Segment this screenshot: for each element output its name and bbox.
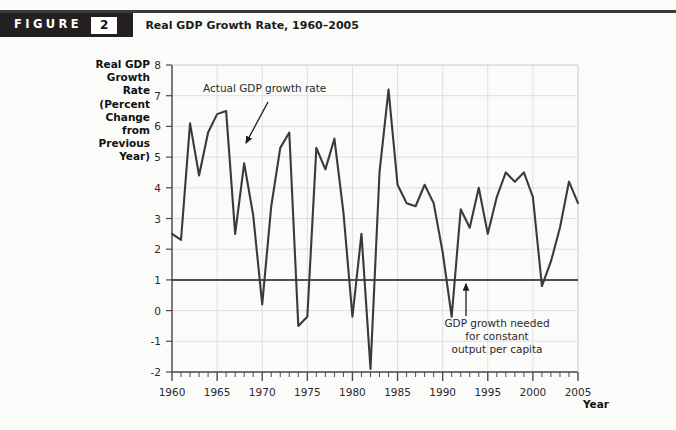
- figure-banner-tail: [124, 13, 133, 37]
- y-axis-title-line: Growth: [107, 71, 150, 83]
- y-tick-label: 3: [154, 213, 161, 225]
- y-tick-label: 2: [154, 243, 161, 255]
- y-axis-title-line: Real GDP: [95, 58, 150, 70]
- y-tick-label: 1: [154, 274, 161, 286]
- y-tick-label: -2: [151, 366, 161, 378]
- y-axis-tick-labels: 876543210-1-2: [151, 59, 162, 378]
- figure-word-block: FIGURE: [0, 13, 91, 37]
- x-tick-label: 1965: [204, 386, 231, 398]
- y-tick-label: 0: [154, 305, 161, 317]
- y-axis-title-line: Rate: [123, 84, 150, 96]
- x-tick-label: 2005: [565, 386, 592, 398]
- figure-page: FIGURE 2 Real GDP Growth Rate, 1960–2005…: [0, 0, 676, 430]
- y-tick-label: 7: [154, 90, 161, 102]
- x-tick-label: 1985: [384, 386, 411, 398]
- y-tick-label: 8: [154, 59, 161, 71]
- y-axis-title: Real GDPGrowthRate(PercentChangefromPrev…: [95, 58, 150, 162]
- figure-banner: FIGURE 2 Real GDP Growth Rate, 1960–2005: [0, 13, 359, 37]
- gdp-growth-line-chart: 876543210-1-2 19601965197019751980198519…: [0, 40, 676, 430]
- x-tick-label: 1960: [159, 386, 186, 398]
- x-tick-label: 1995: [474, 386, 501, 398]
- x-tick-label: 1975: [294, 386, 321, 398]
- y-axis-title-line: Previous: [99, 137, 150, 149]
- figure-label: FIGURE: [14, 19, 82, 31]
- x-tick-label: 1980: [339, 386, 366, 398]
- figure-number-wrap: 2: [91, 13, 124, 37]
- y-tick-label: 5: [154, 151, 161, 163]
- x-tick-label: 1970: [249, 386, 276, 398]
- chart-container: 876543210-1-2 19601965197019751980198519…: [0, 40, 676, 430]
- threshold-annotation-line: GDP growth needed: [444, 317, 549, 329]
- y-tick-label: -1: [151, 335, 161, 347]
- x-tick-label: 1990: [429, 386, 456, 398]
- y-tick-label: 6: [154, 120, 161, 132]
- figure-title: Real GDP Growth Rate, 1960–2005: [133, 13, 358, 37]
- x-axis-title: Year: [582, 398, 610, 410]
- threshold-annotation-line: output per capita: [451, 343, 542, 355]
- y-tick-label: 4: [154, 182, 161, 194]
- y-axis-title-line: Change: [106, 111, 150, 123]
- y-axis-title-line: Year): [118, 150, 150, 162]
- threshold-annotation-line: for constant: [465, 330, 528, 342]
- y-axis-title-line: from: [122, 124, 150, 136]
- figure-number: 2: [91, 17, 117, 34]
- series-annotation-arrow: [246, 102, 268, 143]
- series-annotation-label: Actual GDP growth rate: [203, 82, 326, 94]
- y-axis-title-line: (Percent: [99, 98, 150, 110]
- x-axis-tick-labels: 1960196519701975198019851990199520002005: [159, 386, 592, 398]
- x-tick-label: 2000: [520, 386, 547, 398]
